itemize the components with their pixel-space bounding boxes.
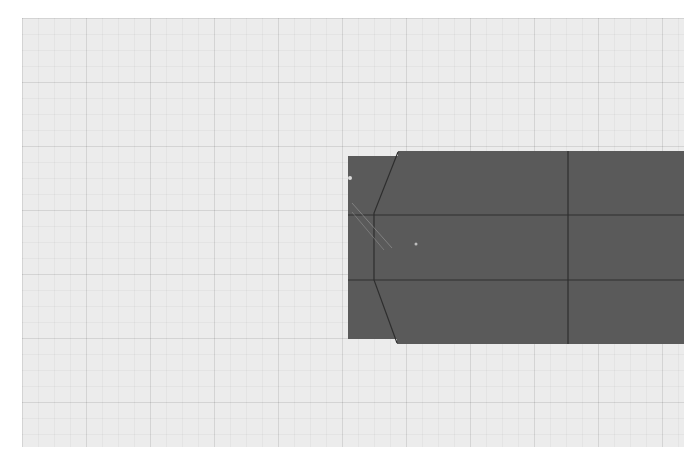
vertex-marker[interactable] xyxy=(348,176,352,180)
drawing-shape-layer[interactable] xyxy=(0,0,700,465)
vertex-marker[interactable] xyxy=(415,243,418,246)
dark-shape-body[interactable] xyxy=(348,151,684,344)
